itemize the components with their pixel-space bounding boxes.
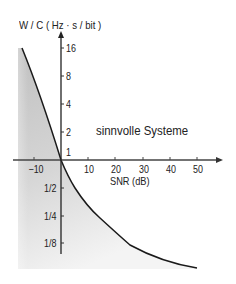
y-tick-label-16: 16: [66, 43, 76, 54]
x-tick-label-30: 30: [139, 164, 149, 175]
x-axis-arrow-icon: [216, 157, 223, 163]
y-tick-label-4: 4: [66, 99, 71, 110]
y-tick-label-half: 1/2: [44, 183, 56, 194]
y-tick-label-quarter: 1/4: [44, 211, 56, 222]
x-tick-label-20: 20: [111, 164, 121, 175]
chart-canvas: [0, 0, 236, 284]
y-tick-label-eighth: 1/8: [44, 238, 56, 249]
y-tick-label-8: 8: [66, 71, 71, 82]
y-axis-title: W / C ( Hz · s / bit ): [19, 20, 101, 31]
x-tick-label-40: 40: [166, 164, 176, 175]
y-axis-arrow-icon: [58, 31, 64, 38]
y-tick-label-2: 2: [66, 127, 71, 138]
x-axis-title: SNR (dB): [110, 176, 150, 187]
x-tick-label-50: 50: [193, 164, 203, 175]
y-tick-label-1: 1: [66, 147, 71, 158]
x-tick-label-10: 10: [84, 164, 94, 175]
region-annotation: sinnvolle Systeme: [96, 124, 188, 137]
x-tick-label-neg10: −10: [28, 164, 43, 175]
